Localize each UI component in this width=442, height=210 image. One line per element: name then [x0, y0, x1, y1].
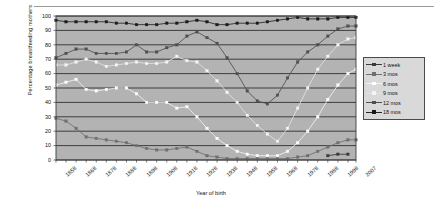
y-axis-tick-label: 20 [29, 128, 51, 134]
legend-item: 6 mos [366, 79, 422, 89]
y-axis-title: Percentage breastfeeding mothers [27, 0, 33, 125]
legend-item: 3 mos [366, 70, 422, 80]
legend-item-label: 6 mos [382, 81, 398, 87]
legend-marker-icon [366, 108, 382, 117]
chart-legend: 1 week3 mos6 mos9 mos12 mos18 mos [363, 57, 425, 120]
legend-item-label: 18 mos [382, 109, 401, 115]
legend-marker-icon [366, 60, 382, 69]
legend-item: 1 week [366, 60, 422, 70]
y-axis-tick-label: 0 [29, 157, 51, 163]
x-axis-title: Year of birth [196, 190, 226, 196]
legend-item: 12 mos [366, 98, 422, 108]
chart-figure: 1009080706050403020100 18581868187818881… [0, 0, 442, 210]
legend-marker-icon [366, 70, 382, 79]
y-axis-tick-label: 10 [29, 142, 51, 148]
legend-marker-icon [366, 79, 382, 88]
chart-plot-area: 1009080706050403020100 18581868187818881… [0, 0, 442, 210]
legend-item: 9 mos [366, 89, 422, 99]
legend-item-label: 9 mos [382, 90, 398, 96]
legend-marker-icon [366, 89, 382, 98]
legend-item-label: 3 mos [382, 71, 398, 77]
legend-item-label: 12 mos [382, 100, 401, 106]
legend-item-label: 1 week [382, 62, 400, 68]
legend-item: 18 mos [366, 108, 422, 118]
legend-marker-icon [366, 98, 382, 107]
